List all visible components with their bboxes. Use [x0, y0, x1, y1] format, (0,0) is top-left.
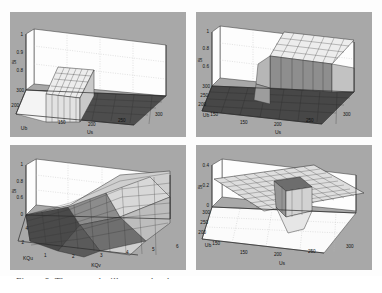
- surface-plot-bottom-left: 1 0.8 0.6 0 4 2 1 2 3 4 5 6 KQu KQv Bi: [10, 145, 186, 270]
- xtick-bottom-left-4: 5: [152, 247, 155, 252]
- surface-plot-top-right: 1 0.8 0.6 300 250 200 150 150 200 250 30…: [196, 12, 372, 137]
- ztick-top-left-2: 0.8: [17, 68, 24, 73]
- xtick-bottom-right-3: 300: [346, 244, 354, 249]
- xlabel-bottom-left: KQv: [91, 262, 101, 268]
- figure-caption: Figure 9. These graphs illustrate the sh…: [16, 276, 368, 287]
- xtick-bottom-left-0: 1: [44, 253, 47, 258]
- figure-caption-strip: Figure 9. These graphs illustrate the sh…: [0, 276, 382, 293]
- ytick-top-right-3: 300: [202, 84, 210, 89]
- surface-plot-top-left: 1 0.9 0.8 300 200 150 200 250 300 Ub Us …: [10, 12, 186, 137]
- back-wall-left: [26, 159, 36, 215]
- ytick-bottom-right-2: 250: [200, 220, 208, 225]
- ylabel-top-left: Ub: [21, 125, 28, 131]
- ytick-top-left-1: 300: [16, 88, 24, 93]
- zlabel-top-right: Bi: [197, 58, 203, 62]
- xtick-bottom-left-5: 6: [176, 244, 179, 249]
- panel-grid: 1 0.9 0.8 300 200 150 200 250 300 Ub Us …: [10, 12, 372, 270]
- xtick-top-right-2: 250: [306, 118, 314, 123]
- xtick-bottom-right-2: 250: [308, 249, 316, 254]
- ztick-bottom-left-3: 1: [20, 162, 23, 167]
- ztick-bottom-right-2: 0.4: [203, 163, 210, 168]
- ytick-bottom-right-3: 300: [202, 210, 210, 215]
- ytick-bottom-left-0: 2: [21, 240, 24, 245]
- ztick-top-right-1: 0.8: [203, 46, 210, 51]
- bottom-left-svg: 1 0.8 0.6 0 4 2 1 2 3 4 5 6 KQu KQv Bi: [10, 145, 186, 270]
- xtick-top-right-1: 200: [274, 122, 282, 127]
- ztick-top-right-2: 0.6: [203, 64, 210, 69]
- xtick-top-left-1: 200: [88, 122, 96, 127]
- xtick-bottom-left-3: 4: [126, 250, 129, 255]
- ztick-bottom-left-0: 0: [20, 212, 23, 217]
- xlabel-top-left: Us: [87, 129, 94, 135]
- xtick-bottom-left-2: 3: [100, 253, 103, 258]
- xtick-top-left-2: 250: [118, 118, 126, 123]
- ytick-top-right-2: 250: [200, 93, 208, 98]
- ytick-bottom-right-0: 150: [212, 241, 220, 246]
- top-right-svg: 1 0.8 0.6 300 250 200 150 150 200 250 30…: [196, 12, 372, 137]
- ztick-top-right-0: 1: [206, 29, 209, 34]
- ylabel-bottom-left: KQu: [23, 255, 33, 261]
- ztick-top-left-0: 1: [20, 32, 23, 37]
- xtick-top-left-0: 150: [58, 120, 66, 125]
- ytick-bottom-right-1: 200: [198, 230, 206, 235]
- zlabel-top-left: Bi: [11, 60, 17, 64]
- zlabel-bottom-left: Bi: [11, 189, 17, 193]
- xtick-top-right-0: 150: [240, 120, 248, 125]
- ztick-bottom-left-1: 0.6: [17, 195, 24, 200]
- plateau-side-face: [332, 64, 354, 92]
- zlabel-bottom-right: Bi: [197, 185, 203, 189]
- ylabel-bottom-right: Ub: [205, 242, 212, 248]
- ylabel-top-right: Ub: [203, 112, 210, 118]
- surface-plot-bottom-right: 0.4 0.2 0 300 250 200 150 150 200 250 30…: [196, 145, 372, 270]
- ytick-top-right-0: 150: [210, 112, 218, 117]
- ytick-bottom-left-1: 4: [25, 226, 28, 231]
- xlabel-top-right: Us: [275, 129, 282, 135]
- back-wall-left: [212, 26, 220, 86]
- xtick-top-left-3: 300: [155, 112, 163, 117]
- ridge-front-face: [46, 94, 80, 122]
- xtick-top-right-3: 300: [343, 112, 351, 117]
- xtick-bottom-right-1: 200: [274, 252, 282, 257]
- top-left-svg: 1 0.9 0.8 300 200 150 200 250 300 Ub Us …: [10, 12, 186, 137]
- xlabel-bottom-right: Us: [279, 260, 286, 266]
- back-wall-left: [26, 29, 34, 90]
- ztick-bottom-right-0: 0: [206, 203, 209, 208]
- ytick-top-left-0: 200: [11, 103, 19, 108]
- bottom-right-svg: 0.4 0.2 0 300 250 200 150 150 200 250 30…: [196, 145, 372, 270]
- xtick-bottom-right-0: 150: [240, 250, 248, 255]
- ztick-top-left-1: 0.9: [17, 50, 24, 55]
- ztick-bottom-left-2: 0.8: [17, 179, 24, 184]
- ytick-top-right-1: 200: [198, 102, 206, 107]
- figure-sheet: 1 0.9 0.8 300 200 150 200 250 300 Ub Us …: [0, 0, 382, 293]
- ztick-bottom-right-1: 0.2: [203, 183, 210, 188]
- xtick-bottom-left-1: 2: [72, 254, 75, 259]
